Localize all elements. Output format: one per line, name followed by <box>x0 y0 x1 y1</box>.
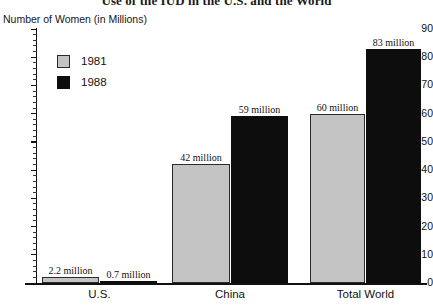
y-tick-minor <box>33 68 37 69</box>
bar <box>172 164 230 283</box>
bar-value-label: 0.7 million <box>88 269 169 280</box>
y-tick-minor <box>33 232 37 233</box>
bar <box>366 49 421 283</box>
bar-value-label: 42 million <box>160 152 242 163</box>
legend-label-1981: 1981 <box>81 55 107 67</box>
legend-entry-1981: 1981 <box>57 52 107 70</box>
y-tick-minor <box>33 260 37 261</box>
bar-value-label: 83 million <box>354 37 433 48</box>
y-tick-minor <box>33 40 37 41</box>
y-tick-minor <box>33 79 37 80</box>
y-tick-label: 90 <box>405 23 433 33</box>
y-tick-major <box>31 29 37 30</box>
y-tick-major <box>31 141 37 142</box>
legend: 1981 1988 <box>57 52 107 94</box>
y-tick-minor <box>33 147 37 148</box>
x-axis-line <box>25 283 427 285</box>
y-tick-minor <box>33 175 37 176</box>
bar <box>310 114 365 283</box>
category-label: U.S. <box>40 288 160 300</box>
y-tick-major <box>31 170 37 171</box>
y-tick-minor <box>33 220 37 221</box>
y-tick-major <box>31 85 37 86</box>
bar-value-label: 59 million <box>219 104 300 115</box>
category-label: Total World <box>306 288 426 300</box>
y-tick-minor <box>33 102 37 103</box>
y-tick-minor <box>33 51 37 52</box>
y-tick-minor <box>33 62 37 63</box>
y-tick-minor <box>33 34 37 35</box>
y-tick-major <box>31 198 37 199</box>
y-tick-major <box>31 57 37 58</box>
y-tick-minor <box>33 108 37 109</box>
y-tick-major <box>31 283 37 284</box>
y-tick-minor <box>33 119 37 120</box>
y-tick-minor <box>33 215 37 216</box>
legend-swatch-icon-1988 <box>57 76 70 89</box>
category-label: China <box>170 288 290 300</box>
y-tick-minor <box>33 91 37 92</box>
y-tick-minor <box>33 249 37 250</box>
y-tick-minor <box>33 74 37 75</box>
y-tick-minor <box>33 187 37 188</box>
y-tick-minor <box>33 203 37 204</box>
y-tick-minor <box>33 164 37 165</box>
y-tick-minor <box>33 192 37 193</box>
legend-entry-1988: 1988 <box>57 73 107 91</box>
y-tick-minor <box>33 153 37 154</box>
y-tick-major <box>31 113 37 114</box>
bar <box>231 116 288 283</box>
y-tick-minor <box>33 243 37 244</box>
y-tick-minor <box>33 96 37 97</box>
y-tick-minor <box>33 124 37 125</box>
bar <box>100 281 157 284</box>
y-axis-line <box>36 28 37 284</box>
legend-label-1988: 1988 <box>81 76 107 88</box>
y-tick-minor <box>33 181 37 182</box>
y-tick-minor <box>33 277 37 278</box>
legend-swatch-icon-1981 <box>57 55 70 68</box>
y-tick-minor <box>33 136 37 137</box>
y-tick-minor <box>33 130 37 131</box>
y-tick-minor <box>33 237 37 238</box>
y-tick-minor <box>33 209 37 210</box>
y-tick-major <box>31 254 37 255</box>
plot-area: 0102030405060708090 2.2 million0.7 milli… <box>0 0 433 307</box>
y-tick-minor <box>33 45 37 46</box>
y-tick-minor <box>33 158 37 159</box>
y-tick-major <box>31 226 37 227</box>
